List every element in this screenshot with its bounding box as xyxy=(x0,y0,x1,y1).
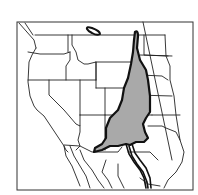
map-figure: Western United States and northern Mexic… xyxy=(0,0,198,195)
map-canvas xyxy=(0,0,198,195)
